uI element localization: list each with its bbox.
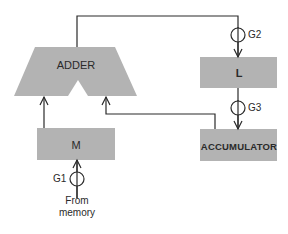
diagram-canvas <box>0 0 288 234</box>
g2-label: G2 <box>248 29 261 40</box>
from-memory-line1: From <box>59 195 95 207</box>
m-label: M <box>71 139 80 151</box>
accumulator-label: ACCUMULATOR <box>201 141 277 152</box>
g1-label: G1 <box>53 173 66 184</box>
adder-block <box>14 47 137 96</box>
adder-label: ADDER <box>57 59 96 71</box>
g3-label: G3 <box>248 102 261 113</box>
accumulator-to-adder-line <box>106 97 215 129</box>
from-memory-line2: memory <box>59 207 95 219</box>
from-memory-label: From memory <box>59 195 95 219</box>
l-label: L <box>236 67 243 79</box>
